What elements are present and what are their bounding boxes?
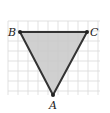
diagram-canvas: B C A [0,0,110,113]
vertex-a-point [51,93,55,97]
vertex-a-label: A [48,99,57,112]
vertex-c-label: C [90,26,99,39]
vertex-c-point [85,30,89,34]
vertex-b-label: B [7,26,16,39]
vertex-b-point [18,30,22,34]
triangle-abc [20,32,87,95]
